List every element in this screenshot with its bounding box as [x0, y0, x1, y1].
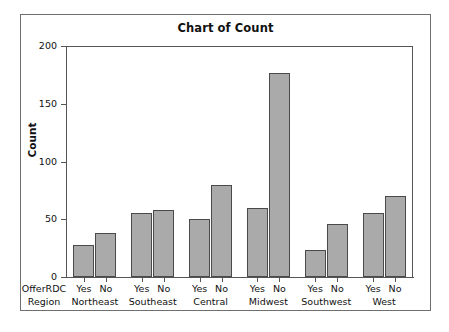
y-axis-line [66, 46, 67, 278]
bar[interactable] [269, 73, 290, 277]
x-label-category: No [259, 283, 299, 294]
y-tick-label: 0 [17, 271, 57, 282]
x-axis-line [66, 277, 414, 278]
x-tick-mark [142, 278, 143, 282]
x-tick-mark [279, 278, 280, 282]
x-tick-mark [200, 278, 201, 282]
bar[interactable] [73, 245, 94, 277]
x-label-category: No [86, 283, 126, 294]
x-label-category: No [202, 283, 242, 294]
x-tick-mark [337, 278, 338, 282]
bar[interactable] [247, 208, 268, 277]
x-label-category: No [144, 283, 184, 294]
x-tick-mark [395, 278, 396, 282]
chart-title: Chart of Count [21, 21, 430, 35]
x-tick-mark [257, 278, 258, 282]
x-tick-mark [84, 278, 85, 282]
bar[interactable] [211, 185, 232, 277]
bar[interactable] [385, 196, 406, 277]
bar[interactable] [95, 233, 116, 277]
x-tick-mark [164, 278, 165, 282]
bar[interactable] [131, 213, 152, 277]
x-label-category: No [375, 283, 415, 294]
row-header-region: Region [18, 296, 70, 307]
y-tick-label: 200 [17, 40, 57, 51]
bar[interactable] [305, 250, 326, 277]
y-tick-label: 50 [17, 213, 57, 224]
bar[interactable] [189, 219, 210, 277]
y-axis-title: Count [26, 100, 38, 180]
x-tick-mark [222, 278, 223, 282]
y-tick-label: 150 [17, 98, 57, 109]
x-tick-mark [315, 278, 316, 282]
row-header-offerrdc: OfferRDC [18, 283, 70, 294]
x-label-category: No [317, 283, 357, 294]
bar[interactable] [327, 224, 348, 277]
plot-area [66, 46, 413, 277]
y-tick-label: 100 [17, 156, 57, 167]
x-tick-mark [373, 278, 374, 282]
bar[interactable] [153, 210, 174, 277]
x-label-region: West [339, 296, 429, 307]
bar[interactable] [363, 213, 384, 277]
x-tick-mark [106, 278, 107, 282]
